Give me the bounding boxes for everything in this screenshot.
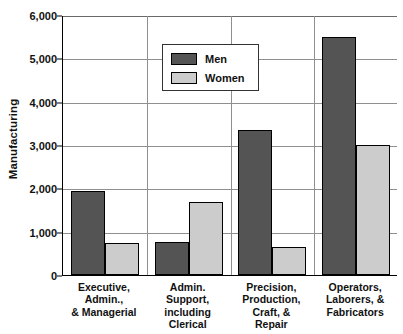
y-axis-tick-label: 5,000: [29, 53, 57, 65]
y-axis-tick-label: 4,000: [29, 97, 57, 109]
x-axis-category-label-line: including: [146, 306, 230, 318]
bar-group: [63, 16, 147, 275]
bar-men[interactable]: [71, 191, 105, 275]
x-axis-category-label: Precision,Production,Craft, &Repair: [230, 281, 314, 331]
x-axis-category-label-line: Laborers, &: [313, 293, 397, 305]
bar-women[interactable]: [356, 145, 390, 275]
legend-label-men: Men: [205, 53, 227, 65]
x-axis-category-label-line: Clerical: [146, 318, 230, 330]
bar-group: [314, 16, 398, 275]
plot-area: Men Women: [62, 16, 397, 276]
x-axis-category-label: Operators,Laborers, &Fabricators: [313, 281, 397, 318]
y-axis-tick-label: 3,000: [29, 140, 57, 152]
bar-men[interactable]: [238, 130, 272, 275]
legend-swatch-women-icon: [171, 72, 197, 84]
x-axis-category-label: Executive,Admin.,& Managerial: [62, 281, 146, 318]
legend-label-women: Women: [205, 72, 245, 84]
x-axis-category-label-line: Repair: [230, 318, 314, 330]
x-axis-category-label-line: Admin.: [146, 281, 230, 293]
legend: Men Women: [162, 44, 259, 91]
legend-swatch-men-icon: [171, 53, 197, 65]
y-axis-tick-label: 1,000: [29, 227, 57, 239]
bar-women[interactable]: [189, 202, 223, 275]
x-axis-category-labels: Executive,Admin.,& ManagerialAdmin.Suppo…: [62, 281, 397, 334]
bar-chart: Manufacturing 01,0002,0003,0004,0005,000…: [0, 0, 403, 334]
y-axis-tick-label: 6,000: [29, 10, 57, 22]
bar-women[interactable]: [272, 247, 306, 275]
y-axis-title: Manufacturing: [2, 0, 24, 278]
y-axis-tick-label: 2,000: [29, 183, 57, 195]
y-axis-title-text: Manufacturing: [7, 99, 19, 180]
x-axis-category-label-line: Fabricators: [313, 306, 397, 318]
x-axis-category-label-line: & Managerial: [62, 306, 146, 318]
x-axis-category-label-line: Operators,: [313, 281, 397, 293]
x-axis-category-label: Admin.Support,includingClerical: [146, 281, 230, 331]
x-axis-category-label-line: Production,: [230, 293, 314, 305]
x-axis-category-label-line: Executive,: [62, 281, 146, 293]
bar-men[interactable]: [322, 37, 356, 275]
bar-women[interactable]: [105, 243, 139, 275]
legend-entry-women: Women: [171, 69, 258, 87]
y-axis-tick-labels: 01,0002,0003,0004,0005,0006,000: [22, 16, 62, 276]
x-axis-category-label-line: Admin.,: [62, 293, 146, 305]
bar-men[interactable]: [155, 242, 189, 275]
x-axis-category-label-line: Precision,: [230, 281, 314, 293]
x-axis-category-label-line: Craft, &: [230, 306, 314, 318]
x-axis-category-label-line: Support,: [146, 293, 230, 305]
legend-entry-men: Men: [171, 50, 258, 68]
